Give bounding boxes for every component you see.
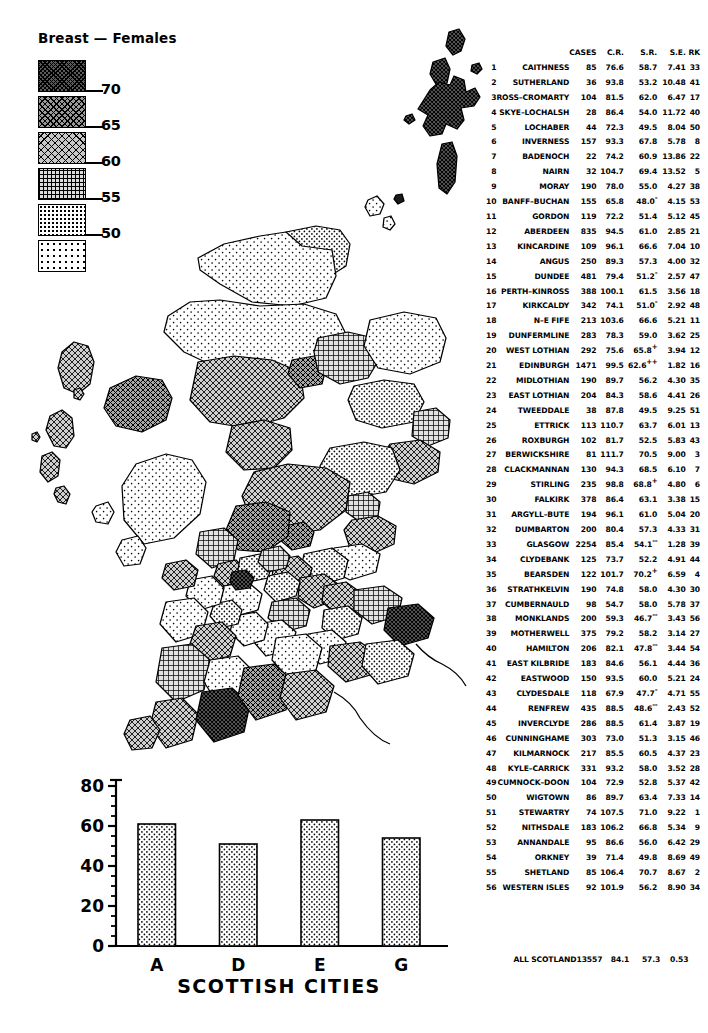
row-index: 28 (486, 463, 496, 478)
table-row: 55SHETLAND85106.470.78.672 (486, 866, 700, 881)
row-rank: 53 (686, 195, 700, 210)
row-rank: 49 (686, 851, 700, 866)
row-standard-error: 3.44 (657, 642, 686, 657)
row-standard-error: 6.59 (657, 568, 686, 583)
row-rank: 55 (686, 687, 700, 702)
row-index: 56 (486, 881, 496, 896)
th-cr: C.R. (596, 46, 623, 61)
legend-label-5: 50 (101, 225, 121, 241)
row-standardised-rate: 70.2+ (624, 568, 657, 583)
row-district: CUNNINGHAME (496, 732, 569, 747)
row-standard-error: 4.30 (657, 374, 686, 389)
significance-marker: ++ (646, 359, 657, 367)
row-index: 51 (486, 806, 496, 821)
legend-swatch-2 (38, 96, 86, 128)
row-district: WIGTOWN (496, 791, 569, 806)
row-cases: 44 (569, 121, 596, 136)
row-rank: 6 (686, 478, 700, 493)
table-row: 44RENFREW43588.548.6--2.4352 (486, 702, 700, 717)
row-cases: 200 (569, 523, 596, 538)
row-index: 43 (486, 687, 496, 702)
row-cases: 183 (569, 821, 596, 836)
sr-value: 61.4 (639, 717, 657, 732)
row-cases: 213 (569, 314, 596, 329)
row-cases: 303 (569, 732, 596, 747)
row-index: 12 (486, 225, 496, 240)
row-standardised-rate: 47.8-- (624, 642, 657, 657)
table-row: 24TWEEDDALE3887.849.59.2551 (486, 404, 700, 419)
row-crude-rate: 82.1 (596, 642, 623, 657)
row-standardised-rate: 63.1 (624, 493, 657, 508)
row-standardised-rate: 61.4 (624, 717, 657, 732)
row-district: BERWICKSHIRE (496, 448, 569, 463)
row-rank: 45 (686, 210, 700, 225)
row-standardised-rate: 49.5 (624, 404, 657, 419)
bar (138, 824, 175, 946)
table-row: 39MOTHERWELL37579.258.23.1427 (486, 627, 700, 642)
row-crude-rate: 110.7 (596, 419, 623, 434)
table-row: 54ORKNEY3971.449.88.6949 (486, 851, 700, 866)
row-rank: 14 (686, 791, 700, 806)
table-row: 19DUNFERMLINE28378.359.03.6225 (486, 329, 700, 344)
row-district: MONKLANDS (496, 612, 569, 627)
row-cases: 194 (569, 508, 596, 523)
table-row: 16PERTH–KINROSS388100.161.53.5618 (486, 285, 700, 300)
row-district: BADENOCH (496, 150, 569, 165)
row-index: 33 (486, 538, 496, 553)
row-rank: 13 (686, 419, 700, 434)
row-district: DUMBARTON (496, 523, 569, 538)
row-standardised-rate: 58.0 (624, 598, 657, 613)
row-standardised-rate: 70.7 (624, 866, 657, 881)
sr-value: 70.5 (639, 448, 657, 463)
row-crude-rate: 93.2 (596, 762, 623, 777)
sr-value: 60.9 (639, 150, 657, 165)
sr-value: 58.0 (639, 598, 657, 613)
row-crude-rate: 85.5 (596, 747, 623, 762)
row-crude-rate: 72.9 (596, 776, 623, 791)
row-cases: 250 (569, 255, 596, 270)
table-row: 37CUMBERNAULD9854.758.05.7837 (486, 598, 700, 613)
y-tick-label: 20 (80, 896, 104, 916)
row-district: MIDLOTHIAN (496, 374, 569, 389)
row-index: 44 (486, 702, 496, 717)
sr-value: 58.0 (639, 583, 657, 598)
row-crude-rate: 81.5 (596, 91, 623, 106)
row-standardised-rate: 54.1-- (624, 538, 657, 553)
row-crude-rate: 67.9 (596, 687, 623, 702)
row-cases: 190 (569, 180, 596, 195)
row-standard-error: 8.90 (657, 881, 686, 896)
row-standard-error: 5.12 (657, 210, 686, 225)
sr-value: 67.8 (639, 135, 657, 150)
row-index: 47 (486, 747, 496, 762)
row-cases: 98 (569, 598, 596, 613)
row-crude-rate: 76.6 (596, 61, 623, 76)
row-crude-rate: 84.3 (596, 389, 623, 404)
row-district: DUNFERMLINE (496, 329, 569, 344)
sr-value: 58.6 (639, 389, 657, 404)
sr-value: 48.6 (634, 702, 652, 717)
x-tick-label: E (314, 955, 326, 975)
row-crude-rate: 101.7 (596, 568, 623, 583)
row-crude-rate: 99.5 (596, 359, 623, 374)
row-index: 46 (486, 732, 496, 747)
row-cases: 104 (569, 776, 596, 791)
sr-value: 49.8 (639, 851, 657, 866)
row-rank: 28 (686, 762, 700, 777)
row-cases: 190 (569, 583, 596, 598)
sr-value: 61.0 (639, 225, 657, 240)
table-row: 47KILMARNOCK21785.560.54.3723 (486, 747, 700, 762)
row-crude-rate: 104.7 (596, 165, 623, 180)
row-standard-error: 9.22 (657, 806, 686, 821)
row-standardised-rate: 58.0 (624, 762, 657, 777)
row-cases: 835 (569, 225, 596, 240)
total-rank (688, 955, 700, 964)
row-index: 52 (486, 821, 496, 836)
row-standardised-rate: 53.2 (624, 76, 657, 91)
row-rank: 19 (686, 717, 700, 732)
row-standardised-rate: 60.5 (624, 747, 657, 762)
row-cases: 32 (569, 165, 596, 180)
significance-marker: -- (652, 642, 657, 650)
table-row: 42EASTWOOD15093.560.05.2124 (486, 672, 700, 687)
sr-value: 56.2 (639, 374, 657, 389)
sr-value: 52.2 (639, 553, 657, 568)
